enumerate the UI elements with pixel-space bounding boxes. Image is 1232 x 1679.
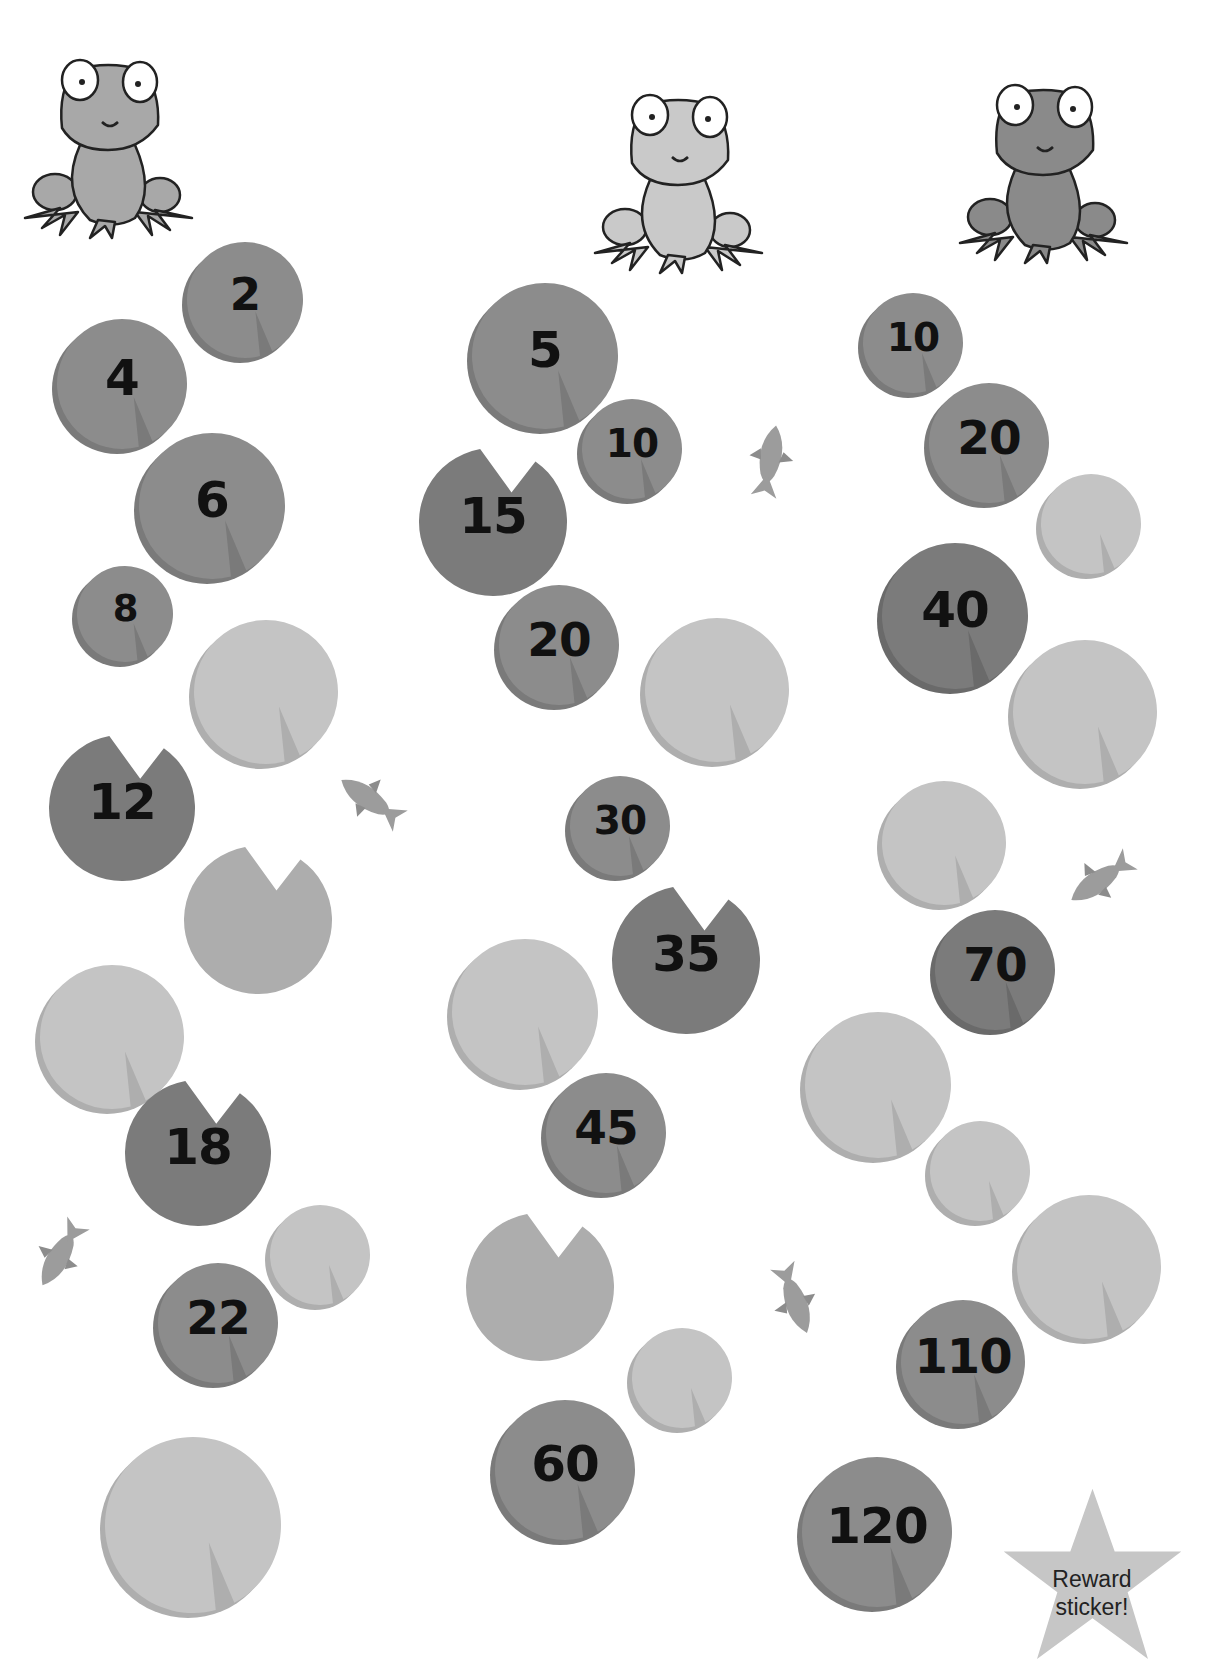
pad-number: 35 <box>652 925 720 983</box>
lily-pad-blank-count-by-2[interactable] <box>184 846 332 994</box>
lily-pad-count-by-2-4: 4 <box>57 319 187 449</box>
lily-pad-blank-count-by-5[interactable] <box>466 1213 614 1361</box>
lily-pad-count-by-5-35: 35 <box>612 886 760 1034</box>
lily-pad-count-by-2-18: 18 <box>125 1080 271 1226</box>
fish-1-icon <box>725 415 815 509</box>
pad-number: 60 <box>531 1435 599 1493</box>
pad-number: 2 <box>230 268 260 321</box>
pad-number: 30 <box>594 798 646 843</box>
lily-pad-blank-count-by-2[interactable] <box>105 1437 281 1613</box>
pad-number: 5 <box>528 321 562 379</box>
lily-pad-count-by-10-20: 20 <box>929 383 1049 503</box>
lily-pad-icon <box>637 616 789 768</box>
lily-pad-count-by-10-70: 70 <box>935 910 1055 1030</box>
reward-line-1: Reward <box>1012 1565 1172 1593</box>
lily-pad-blank-count-by-2[interactable] <box>194 620 338 764</box>
lily-pad-count-by-5-20: 20 <box>499 585 619 705</box>
pad-number: 15 <box>459 487 527 545</box>
pad-number: 12 <box>88 773 156 831</box>
lily-pad-icon <box>1005 638 1157 790</box>
pad-number: 70 <box>963 937 1026 992</box>
frog-right-icon <box>955 75 1135 269</box>
lily-pad-blank-count-by-2[interactable] <box>270 1205 370 1305</box>
lily-pad-blank-count-by-10[interactable] <box>1013 640 1157 784</box>
lily-pad-icon <box>1033 472 1141 580</box>
lily-pad-count-by-10-10: 10 <box>863 293 963 393</box>
fish-5-icon <box>750 1255 840 1349</box>
pad-number: 40 <box>921 581 989 639</box>
lily-pad-icon <box>444 937 598 1091</box>
pad-number: 20 <box>527 612 590 667</box>
lily-pad-count-by-2-6: 6 <box>139 433 285 579</box>
lily-pad-icon <box>262 1203 370 1311</box>
lily-pad-count-by-5-30: 30 <box>570 776 670 876</box>
reward-line-2: sticker! <box>1012 1593 1172 1621</box>
pad-number: 6 <box>195 471 229 529</box>
pad-number: 45 <box>574 1100 637 1155</box>
lily-pad-icon <box>97 1435 281 1619</box>
fish-2-icon <box>325 755 415 849</box>
lily-pad-blank-count-by-10[interactable] <box>1017 1195 1161 1339</box>
fish-4-icon <box>15 1210 105 1304</box>
fish-3-icon <box>1055 835 1145 929</box>
lily-pad-blank-count-by-5[interactable] <box>452 939 598 1085</box>
pad-number: 110 <box>914 1328 1011 1384</box>
lily-pad-count-by-10-110: 110 <box>901 1300 1025 1424</box>
lily-pad-count-by-5-45: 45 <box>546 1073 666 1193</box>
pad-number: 20 <box>957 410 1020 465</box>
lily-pad-count-by-5-10: 10 <box>582 399 682 499</box>
lily-pad-count-by-2-2: 2 <box>187 242 303 358</box>
lily-pad-blank-count-by-5[interactable] <box>632 1328 732 1428</box>
lily-pad-board: 246812182251015203035456010204070110120 <box>0 0 1232 1679</box>
lily-pad-count-by-2-12: 12 <box>49 735 195 881</box>
lily-pad-icon <box>624 1326 732 1434</box>
lily-pad-icon <box>458 1211 614 1367</box>
lily-pad-count-by-5-60: 60 <box>495 1400 635 1540</box>
lily-pad-count-by-10-120: 120 <box>802 1457 952 1607</box>
lily-pad-count-by-2-8: 8 <box>77 566 173 662</box>
pad-number: 18 <box>164 1118 232 1176</box>
lily-pad-blank-count-by-5[interactable] <box>645 618 789 762</box>
lily-pad-icon <box>1009 1193 1161 1345</box>
lily-pad-count-by-2-22: 22 <box>158 1263 278 1383</box>
lily-pad-blank-count-by-10[interactable] <box>882 781 1006 905</box>
lily-pad-blank-count-by-10[interactable] <box>1041 474 1141 574</box>
lily-pad-icon <box>176 844 332 1000</box>
frog-left-icon <box>20 50 200 244</box>
pad-number: 10 <box>606 421 658 466</box>
lily-pad-icon <box>874 779 1006 911</box>
pad-number: 8 <box>113 587 138 630</box>
pad-number: 10 <box>887 315 939 360</box>
pad-number: 22 <box>186 1290 249 1345</box>
lily-pad-icon <box>186 618 338 770</box>
lily-pad-count-by-5-15: 15 <box>419 448 567 596</box>
pad-number: 120 <box>826 1497 927 1555</box>
frog-center-icon <box>590 85 770 279</box>
pad-number: 4 <box>105 349 139 407</box>
reward-sticker-label: Reward sticker! <box>1012 1565 1172 1621</box>
